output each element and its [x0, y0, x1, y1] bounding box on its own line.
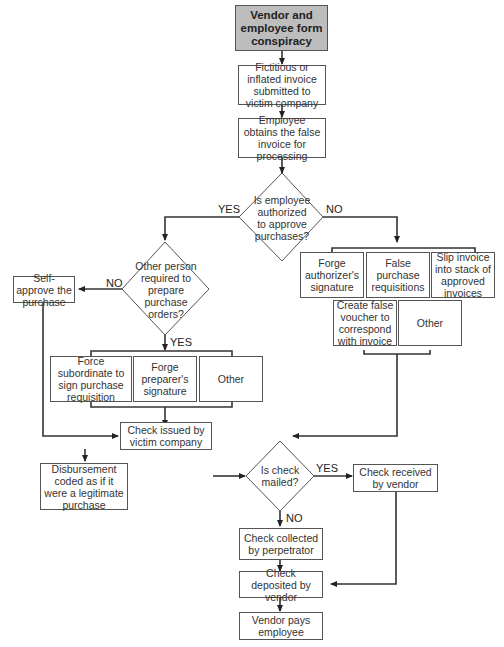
force-subordinate-node: Force subordinate to sign purchase requi… [50, 356, 132, 402]
forge-authorizer-text: Forge authorizer's signature [303, 257, 361, 293]
disbursement-coded-node: Disbursement coded as if it were a legit… [40, 463, 128, 510]
yes-label-check-mailed: YES [316, 462, 338, 474]
self-approve-node: Self-approve the purchase [13, 276, 75, 303]
no-label-check-mailed: NO [286, 512, 303, 524]
check-deposited-node: Check deposited by vendor [239, 571, 323, 598]
start-node: Vendor and employee form conspiracy [235, 5, 328, 51]
forge-preparer-node: Forge preparer's signature [133, 356, 197, 402]
vendor-pays-node: Vendor pays employee [239, 612, 323, 640]
self-approve-text: Self-approve the purchase [16, 272, 72, 308]
fictitious-invoice-node: Fictitious or inflated invoice submitted… [238, 65, 326, 105]
start-node-text: Vendor and employee form conspiracy [238, 9, 325, 48]
check-received-text: Check received by vendor [356, 466, 435, 490]
decision-authorized-text: Is employee authorized to approve purcha… [252, 194, 312, 242]
vendor-pays-text: Vendor pays employee [242, 614, 320, 638]
check-collected-text: Check collected by perpetrator [242, 532, 320, 556]
check-issued-node: Check issued by victim company [120, 422, 212, 450]
slip-invoice-node: Slip invoice into stack of approved invo… [431, 252, 495, 298]
employee-obtains-text: Employee obtains the false invoice for p… [241, 114, 323, 162]
forge-preparer-text: Forge preparer's signature [136, 361, 194, 397]
yes-label-other-person: YES [170, 336, 192, 348]
other-right-text: Other [417, 317, 443, 329]
slip-invoice-text: Slip invoice into stack of approved invo… [434, 251, 492, 299]
other-left-text: Other [218, 373, 244, 385]
employee-obtains-node: Employee obtains the false invoice for p… [238, 118, 326, 158]
check-collected-node: Check collected by perpetrator [239, 528, 323, 560]
fictitious-invoice-text: Fictitious or inflated invoice submitted… [241, 61, 323, 109]
no-label-other-person: NO [106, 277, 123, 289]
decision-check-mailed-text: Is check mailed? [250, 464, 310, 488]
decision-check-mailed: Is check mailed? [250, 460, 310, 492]
other-left-node: Other [199, 356, 263, 402]
forge-authorizer-node: Forge authorizer's signature [300, 252, 364, 298]
no-label-authorized: NO [326, 203, 343, 215]
decision-other-person-text: Other person required to prepare purchas… [132, 260, 200, 320]
force-subordinate-text: Force subordinate to sign purchase requi… [53, 355, 129, 403]
false-requisitions-text: False purchase requisitions [369, 257, 427, 293]
decision-authorized: Is employee authorized to approve purcha… [252, 188, 312, 248]
check-deposited-text: Check deposited by vendor [242, 567, 320, 603]
decision-other-person: Other person required to prepare purchas… [132, 262, 200, 318]
false-requisitions-node: False purchase requisitions [366, 252, 430, 298]
create-voucher-node: Create false voucher to correspond with … [333, 300, 397, 346]
other-right-node: Other [398, 300, 462, 346]
create-voucher-text: Create false voucher to correspond with … [336, 299, 394, 347]
yes-label-authorized: YES [218, 203, 240, 215]
check-received-node: Check received by vendor [353, 464, 438, 492]
disbursement-coded-text: Disbursement coded as if it were a legit… [43, 463, 125, 511]
check-issued-text: Check issued by victim company [123, 424, 209, 448]
